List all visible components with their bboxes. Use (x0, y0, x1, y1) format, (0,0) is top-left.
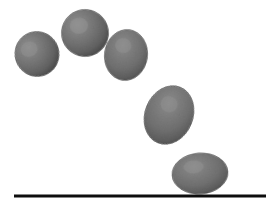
scene-canvas (0, 0, 275, 211)
ground-line (14, 195, 266, 198)
motion-sequence-scene (0, 0, 275, 211)
